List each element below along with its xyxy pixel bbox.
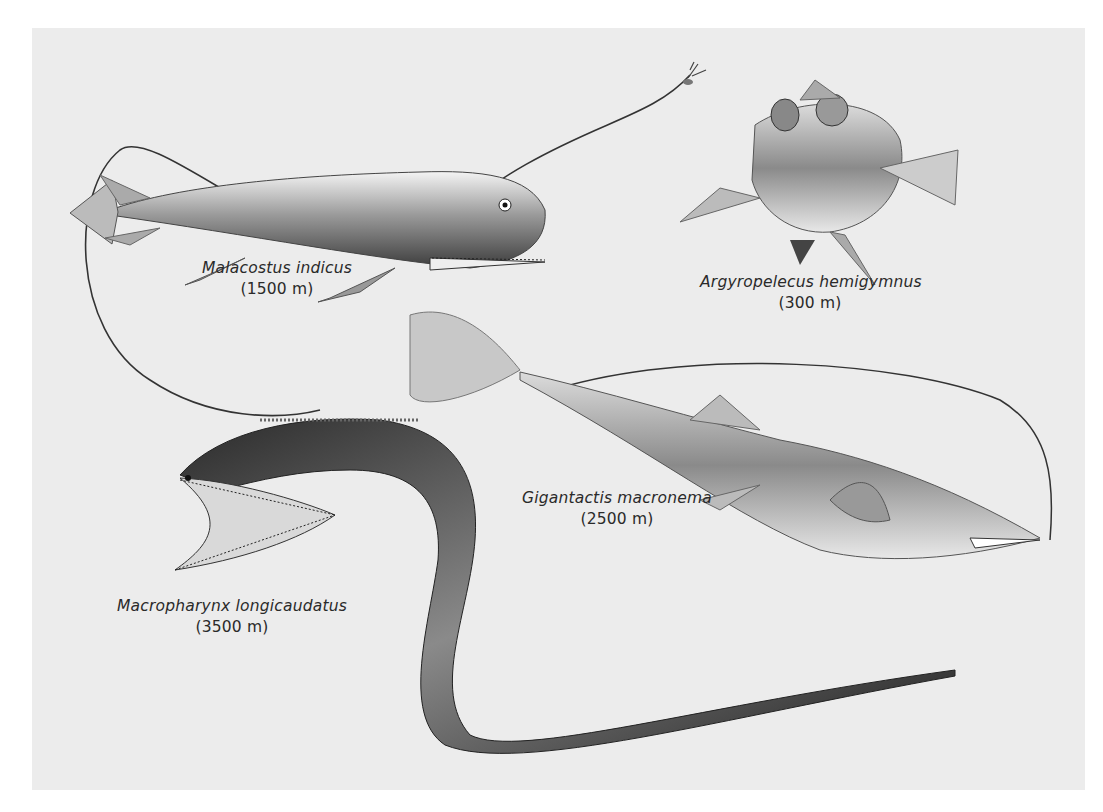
species-name: Gigantactis macronema: [507, 488, 727, 509]
species-name: Argyropelecus hemigymnus: [700, 272, 920, 293]
species-depth: (1500 m): [177, 279, 377, 300]
species-depth: (3500 m): [92, 617, 372, 638]
label-argyropelecus-hemigymnus: Argyropelecus hemigymnus (300 m): [700, 272, 920, 314]
label-malacostus-indicus: Malacostus indicus (1500 m): [177, 258, 377, 300]
species-name: Macropharynx longicaudatus: [92, 596, 372, 617]
species-name: Malacostus indicus: [177, 258, 377, 279]
species-depth: (2500 m): [507, 509, 727, 530]
species-depth: (300 m): [700, 293, 920, 314]
argyropelecus-hemigymnus-fish: [680, 80, 958, 285]
label-gigantactis-macronema: Gigantactis macronema (2500 m): [507, 488, 727, 530]
deep-sea-fish-illustration: [0, 0, 1103, 812]
label-macropharynx-longicaudatus: Macropharynx longicaudatus (3500 m): [92, 596, 372, 638]
